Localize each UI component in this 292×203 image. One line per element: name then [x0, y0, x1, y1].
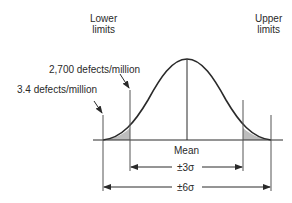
normal-distribution-diagram: [0, 0, 292, 203]
defects-2700-label: 2,700 defects/million: [49, 64, 140, 75]
lower-limits-line2: limits: [90, 24, 117, 35]
upper-limits-line1: Upper: [255, 13, 282, 24]
sigma3-label: ±3σ: [177, 162, 194, 173]
lower-limits-label: Lower limits: [90, 13, 117, 35]
mean-label: Mean: [174, 145, 199, 156]
upper-limits-label: Upper limits: [255, 13, 282, 35]
defects-3-4-label: 3.4 defects/million: [17, 84, 97, 95]
lower-limits-line1: Lower: [90, 13, 117, 24]
right-tail-shading: [243, 128, 271, 140]
pointer-arrow-3-4: [94, 101, 102, 113]
sigma6-label: ±6σ: [177, 182, 194, 193]
upper-limits-line2: limits: [255, 24, 282, 35]
pointer-arrow-2700: [120, 74, 129, 88]
